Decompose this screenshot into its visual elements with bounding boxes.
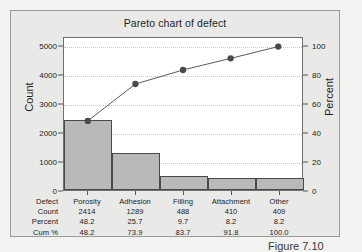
table-row: DefectPorosityAdhesionFillingAttachmentO… [11,197,341,207]
table-spacer-cell [303,197,341,207]
table-cell: Other [255,197,303,207]
y-axis-left-tick-label: 0 [53,187,57,196]
table-cell: 48.2 [63,217,111,227]
line-marker [227,55,233,61]
plot-area [63,37,303,191]
table-cell: 410 [207,207,255,217]
line-marker [275,43,281,49]
table-cell: Attachment [207,197,255,207]
y-axis-right-tick-label: 60 [312,99,321,108]
y-axis-left-tick-label: 3000 [39,99,57,108]
y-axis-right-tick-label: 20 [312,157,321,166]
y-axis-right-tick-mark [303,103,308,104]
table-row-label: Count [11,207,63,217]
y-axis-right-tick-mark [303,191,308,192]
table-cell: 73.9 [111,228,159,238]
y-axis-right-tick-label: 80 [312,70,321,79]
y-axis-right-ticks: 020406080100 [303,37,349,191]
table-row-label: Defect [11,197,63,207]
y-axis-right-tick-mark [303,45,308,46]
x-axis-tick-mark [279,191,280,195]
table-row: Cum %48.273.983.791.8100.0 [11,228,341,238]
x-axis-tick-mark [135,191,136,195]
table-cell: 9.7 [159,217,207,227]
table-cell: 1289 [111,207,159,217]
table-cell: 8.2 [207,217,255,227]
y-axis-right-tick-mark [303,74,308,75]
table-row-label: Cum % [11,228,63,238]
y-axis-left-tick-label: 4000 [39,70,57,79]
table-cell: 2414 [63,207,111,217]
x-axis-tick-mark [231,191,232,195]
y-axis-left-ticks: 010002000300040005000 [11,37,63,191]
line-marker [85,118,91,124]
table-cell: Adhesion [111,197,159,207]
table-cell: 8.2 [255,217,303,227]
pareto-data-table: DefectPorosityAdhesionFillingAttachmentO… [11,197,341,238]
x-axis-tick-mark [87,191,88,195]
chart-title: Pareto chart of defect [11,17,339,29]
table-row: Count24141289488410409 [11,207,341,217]
table-cell: 48.2 [63,228,111,238]
table-row: Percent48.225.79.78.28.2 [11,217,341,227]
data-table: DefectPorosityAdhesionFillingAttachmentO… [11,197,341,238]
x-axis-tick-mark [183,191,184,195]
x-axis-ticks [63,191,303,196]
y-axis-right-tick-label: 0 [312,187,316,196]
figure-caption: Figure 7.10 [268,240,324,252]
table-cell: 100.0 [255,228,303,238]
cumulative-line [88,47,278,121]
table-cell: 25.7 [111,217,159,227]
table-cell: Filling [159,197,207,207]
table-row-label: Percent [11,217,63,227]
y-axis-right-tick-mark [303,161,308,162]
table-cell: Porosity [63,197,111,207]
line-marker [132,81,138,87]
table-cell: 488 [159,207,207,217]
table-spacer-cell [303,228,341,238]
y-axis-left-tick-label: 1000 [39,157,57,166]
table-cell: 83.7 [159,228,207,238]
y-axis-right-tick-mark [303,132,308,133]
table-cell: 409 [255,207,303,217]
table-spacer-cell [303,217,341,227]
table-cell: 91.8 [207,228,255,238]
y-axis-right-tick-label: 100 [312,41,325,50]
y-axis-right-tick-label: 40 [312,128,321,137]
cumulative-line-series [64,38,302,190]
figure-panel: Pareto chart of defect Count Percent 010… [10,10,340,237]
line-marker [180,67,186,73]
y-axis-left-tick-label: 5000 [39,41,57,50]
y-axis-left-tick-label: 2000 [39,128,57,137]
table-spacer-cell [303,207,341,217]
